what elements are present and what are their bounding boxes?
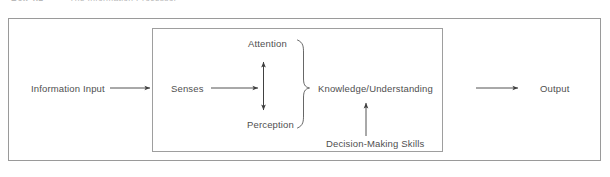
box-caption-number: Box 4.1 bbox=[11, 0, 43, 3]
node-label-output: Output bbox=[540, 84, 569, 94]
diagram-page: Box 4.1The Information Processor Informa… bbox=[0, 0, 610, 177]
node-label-attention: Attention bbox=[248, 39, 287, 49]
node-label-perception: Perception bbox=[247, 120, 294, 130]
box-caption: Box 4.1The Information Processor bbox=[11, 0, 177, 3]
box-caption-title: The Information Processor bbox=[69, 0, 177, 3]
node-label-information-input: Information Input bbox=[31, 84, 105, 94]
node-label-senses: Senses bbox=[171, 84, 204, 94]
caption-strip: Box 4.1The Information Processor bbox=[0, 0, 610, 9]
node-label-knowledge-understanding: Knowledge/Understanding bbox=[318, 84, 433, 94]
node-label-decision-making-skills: Decision-Making Skills bbox=[326, 139, 424, 149]
